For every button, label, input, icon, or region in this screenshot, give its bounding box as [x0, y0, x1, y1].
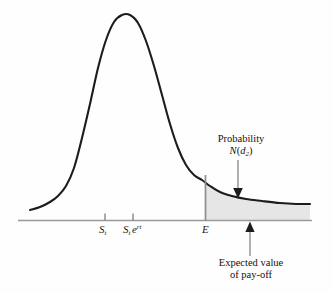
probability-annotation: Probability N(d2) [196, 133, 286, 158]
probability-variable-d: d2 [240, 145, 249, 156]
axis-label-st-ert-sup: rt [137, 223, 142, 231]
probability-variable-d-sub: 2 [245, 150, 249, 158]
lognormal-density-curve [30, 14, 310, 210]
probability-paren-close: ) [249, 145, 253, 156]
probability-function-n: N [230, 145, 237, 156]
probability-down-arrow [233, 160, 243, 199]
axis-label-e-base: E [202, 223, 209, 235]
expected-arrow-head [245, 222, 254, 233]
axis-label-st: St [99, 224, 106, 235]
axis-label-st-base: S [99, 223, 105, 235]
probability-annotation-line2: N(d2) [196, 145, 286, 157]
axis-label-e: E [202, 224, 209, 235]
axis-tick-marks [105, 214, 133, 221]
probability-annotation-line1: Probability [196, 133, 286, 145]
axis-label-st-ert-base: S [123, 223, 129, 235]
expected-value-line2: of pay-off [196, 269, 306, 281]
expected-value-line1: Expected value [196, 257, 306, 269]
figure-container: St Stert E Probability N(d2) Expected va… [0, 0, 332, 293]
expected-value-annotation: Expected value of pay-off [196, 257, 306, 282]
expected-value-up-arrow [245, 222, 254, 257]
axis-label-st-ert: Stert [123, 224, 142, 235]
